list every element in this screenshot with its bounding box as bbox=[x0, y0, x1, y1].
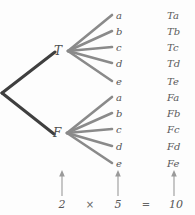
leaf-label-T-d: d bbox=[116, 59, 122, 69]
leaf-label-T-c: c bbox=[116, 43, 122, 53]
count-arrow-total bbox=[171, 170, 177, 196]
outcome-label-Fd: Fd bbox=[167, 142, 180, 152]
leaf-label-T-b: b bbox=[116, 27, 122, 37]
outcome-label-Te: Te bbox=[167, 77, 179, 87]
leaf-label-F-a: a bbox=[116, 93, 122, 103]
leaf-label-F-d: d bbox=[116, 142, 122, 152]
branch-T-to-e bbox=[68, 51, 112, 81]
leaf-label-T-e: e bbox=[116, 77, 122, 87]
outcome-label-Fe: Fe bbox=[167, 159, 179, 169]
equation-operator-multiply: × bbox=[83, 200, 97, 210]
branch-root-to-T bbox=[2, 52, 55, 93]
outcome-label-Td: Td bbox=[167, 59, 180, 69]
leaf-label-F-e: e bbox=[116, 159, 122, 169]
branch-root-to-F bbox=[2, 93, 54, 134]
count-arrow-second-stage bbox=[115, 170, 121, 196]
outcome-label-Fc: Fc bbox=[167, 125, 180, 135]
leaf-label-F-b: b bbox=[116, 109, 122, 119]
outcome-label-Fb: Fb bbox=[167, 109, 180, 119]
outcome-label-Tb: Tb bbox=[167, 27, 180, 37]
leaf-label-T-a: a bbox=[116, 11, 122, 21]
outcome-label-Tc: Tc bbox=[167, 43, 179, 53]
equation-operator-equals: = bbox=[139, 200, 153, 210]
node-label-T: T bbox=[54, 45, 62, 57]
outcome-label-Fa: Fa bbox=[167, 93, 179, 103]
branch-F-to-d bbox=[67, 133, 112, 146]
equation-term-first-stage: 2 bbox=[55, 199, 69, 210]
count-arrow-first-stage bbox=[59, 170, 65, 196]
equation-term-second-stage: 5 bbox=[111, 199, 125, 210]
node-label-F: F bbox=[53, 127, 61, 139]
equation-term-total: 10 bbox=[167, 199, 185, 210]
tree-branch-lines bbox=[0, 0, 195, 215]
leaf-label-F-c: c bbox=[116, 125, 122, 135]
branch-F-to-e bbox=[67, 133, 112, 163]
probability-tree-diagram: T F a b c d e a b c d e Ta Tb Tc Td Te F… bbox=[0, 0, 195, 215]
outcome-label-Ta: Ta bbox=[167, 11, 179, 21]
